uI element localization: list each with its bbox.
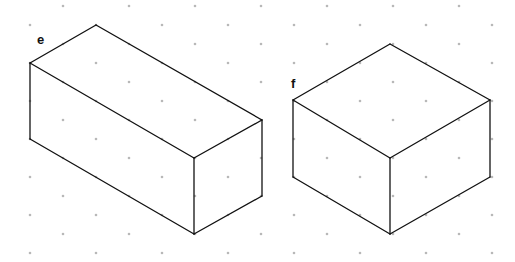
diagram-canvas	[0, 0, 515, 262]
grid-dots	[29, 5, 494, 255]
shape-label-f: f	[291, 77, 295, 90]
shape-label-e: e	[37, 33, 44, 46]
cuboid-f	[293, 44, 490, 234]
isometric-diagram: e f	[0, 0, 515, 262]
cuboid-e	[30, 25, 262, 234]
